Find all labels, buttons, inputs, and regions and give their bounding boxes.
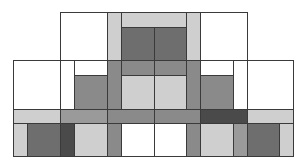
rect-bot-12-light [279, 123, 294, 157]
rect-bot-3-darkest [60, 123, 75, 157]
rect-bar-right-darkest [200, 109, 248, 124]
rect-mid-left-white-top [74, 60, 108, 76]
rect-top-center-light-top [121, 12, 187, 28]
rect-top-right-light-strip [186, 12, 201, 61]
rect-mid-center-light-left [121, 75, 155, 110]
rect-mid-far-right-white [247, 60, 294, 110]
rect-mid-left-dark [74, 75, 108, 110]
rect-mid-center-light-right [154, 75, 187, 110]
rectangle-mosaic-diagram [0, 0, 304, 167]
rect-bot-6-white [121, 123, 155, 157]
rect-mid-center-band-left [121, 60, 155, 76]
rect-mid-left-white-narrow [60, 60, 75, 110]
rect-bot-1-light [13, 123, 28, 157]
rect-mid-right-column [186, 60, 201, 110]
rect-bar-center-left [107, 109, 155, 124]
rect-bar-far-left-light [13, 109, 61, 124]
rect-bot-8-mid [186, 123, 201, 157]
rect-mid-right-white-narrow [233, 60, 248, 110]
rect-top-right-white [200, 12, 248, 61]
rect-bot-5-mid [107, 123, 122, 157]
rect-bar-left-mid [60, 109, 108, 124]
rect-mid-right-dark [200, 75, 234, 110]
rect-bot-10-mid [233, 123, 248, 157]
rect-top-center-dark-left [121, 27, 155, 61]
rect-top-center-dark-right [154, 27, 187, 61]
rect-mid-far-left-white [13, 60, 61, 110]
rect-bot-11-dark [247, 123, 280, 157]
rect-mid-center-band-right [154, 60, 187, 76]
rect-mid-left-column [107, 60, 122, 110]
rect-top-left-white [60, 12, 108, 61]
rect-bot-2-dark [27, 123, 61, 157]
rect-top-left-light-strip [107, 12, 122, 61]
rect-bar-far-right-light [247, 109, 294, 124]
rect-bot-4-light [74, 123, 108, 157]
rect-mid-right-white-top [200, 60, 234, 76]
rect-bar-center-right [154, 109, 201, 124]
rect-bot-9-light [200, 123, 234, 157]
rect-bot-7-white [154, 123, 187, 157]
